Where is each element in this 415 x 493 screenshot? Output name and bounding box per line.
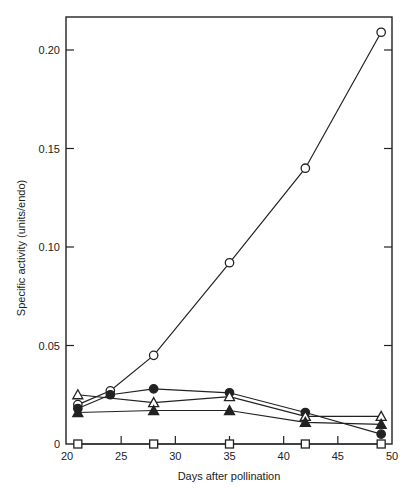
square-marker xyxy=(74,440,82,448)
x-tick-label: 20 xyxy=(61,450,73,462)
x-tick-label: 45 xyxy=(332,450,344,462)
y-tick-label: 0 xyxy=(54,438,60,450)
x-tick-label: 50 xyxy=(386,450,398,462)
square-marker xyxy=(226,440,234,448)
y-tick-label: 0.10 xyxy=(39,241,60,253)
line-chart: 2025303540455000.050.100.150.20 Days aft… xyxy=(0,0,415,493)
series-line xyxy=(78,32,381,404)
square-marker xyxy=(301,440,309,448)
x-axis-label: Days after pollination xyxy=(178,470,281,482)
y-tick-label: 0.15 xyxy=(39,143,60,155)
circle-marker xyxy=(149,351,157,359)
series-group xyxy=(73,28,386,448)
circle-marker xyxy=(149,385,157,393)
circle-marker xyxy=(301,164,309,172)
x-tick-label: 40 xyxy=(278,450,290,462)
axes: 2025303540455000.050.100.150.20 xyxy=(39,17,399,462)
x-tick-label: 35 xyxy=(223,450,235,462)
plot-frame xyxy=(66,17,392,444)
circle-marker xyxy=(377,28,385,36)
y-axis-label: Specific activity (units/endo) xyxy=(15,180,27,316)
x-tick-label: 30 xyxy=(169,450,181,462)
series-square-open xyxy=(74,440,385,448)
circle-marker xyxy=(377,430,385,438)
triangle-marker xyxy=(73,390,83,399)
y-tick-label: 0.20 xyxy=(39,44,60,56)
x-tick-label: 25 xyxy=(115,450,127,462)
square-marker xyxy=(150,440,158,448)
square-marker xyxy=(377,440,385,448)
circle-marker xyxy=(225,259,233,267)
chart: 2025303540455000.050.100.150.20 Days aft… xyxy=(0,0,415,493)
series-circle-open xyxy=(74,28,386,409)
y-tick-label: 0.05 xyxy=(39,340,60,352)
